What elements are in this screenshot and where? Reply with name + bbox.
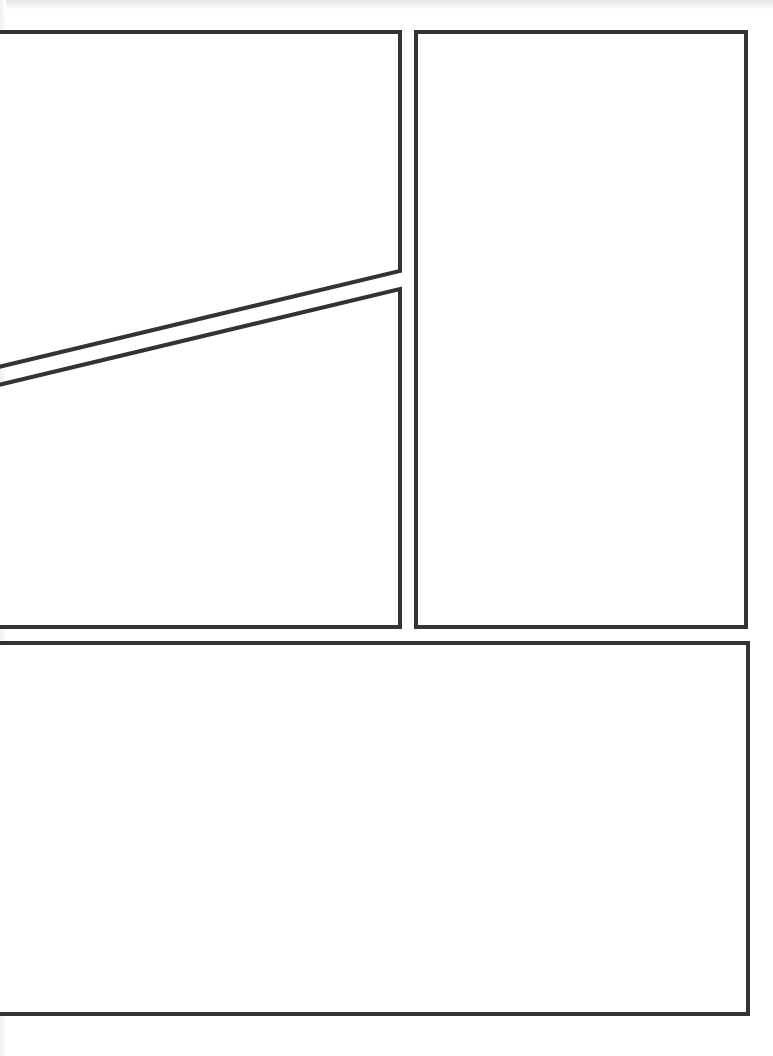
panel-bottom[interactable] <box>0 643 748 1014</box>
comic-page <box>0 0 773 1056</box>
panel-right[interactable] <box>416 32 746 627</box>
